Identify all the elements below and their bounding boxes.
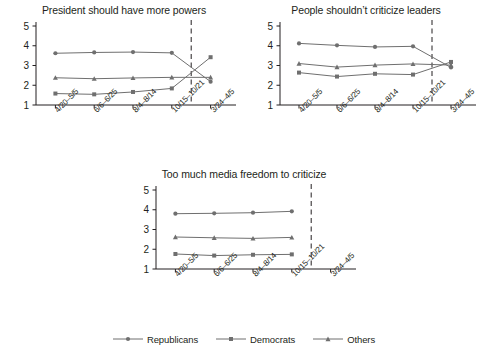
data-point-marker-square [335, 75, 339, 79]
data-point-marker-square [92, 92, 96, 96]
chart-plot-area: 12345 [252, 4, 480, 144]
y-axis-tick-label: 3 [143, 224, 149, 235]
chart-panel-media-freedom: Too much media freedom to criticize 1234… [126, 168, 362, 308]
data-point-marker-square [297, 71, 301, 75]
legend-marker-square-icon [216, 334, 246, 344]
series-line-democrats [175, 254, 291, 256]
legend-item-republicans[interactable]: Republicans [113, 334, 198, 345]
data-point-marker-square [170, 86, 174, 90]
legend-label: Others [347, 334, 375, 345]
y-axis-tick-label: 1 [267, 100, 273, 111]
data-point-marker-circle [170, 51, 174, 55]
series-line-others [175, 237, 291, 238]
data-point-marker-square [131, 90, 135, 94]
data-point-marker-circle [335, 43, 339, 47]
data-point-marker-circle [209, 80, 213, 84]
data-point-marker-circle [297, 41, 301, 45]
data-point-marker-circle [126, 337, 130, 341]
data-point-marker-square [53, 92, 57, 96]
data-point-marker-square [251, 253, 255, 257]
chart-panel-president-powers: President should have more powers 12345 … [8, 4, 240, 144]
legend-item-others[interactable]: Others [313, 334, 375, 345]
y-axis-tick-label: 3 [23, 60, 29, 71]
chart-panel-criticize-leaders: People shouldn’t criticize leaders 12345… [252, 4, 480, 144]
legend-marker-circle-icon [113, 334, 143, 344]
data-point-marker-circle [212, 211, 216, 215]
y-axis-tick-label: 5 [23, 21, 29, 32]
legend-label: Republicans [147, 334, 198, 345]
data-point-marker-square [173, 252, 177, 256]
legend-marker-triangle-icon [313, 334, 343, 344]
y-axis-tick-label: 5 [267, 21, 273, 32]
y-axis-tick-label: 4 [23, 40, 29, 51]
y-axis-tick-label: 2 [143, 244, 149, 255]
y-axis-tick-label: 1 [23, 100, 29, 111]
y-axis-tick-label: 2 [23, 80, 29, 91]
legend-item-democrats[interactable]: Democrats [216, 334, 295, 345]
series-line-republicans [175, 211, 291, 213]
y-axis-tick-label: 1 [143, 264, 149, 275]
data-point-marker-square [229, 337, 233, 341]
data-point-marker-square [212, 254, 216, 258]
figure-panel-chart: President should have more powers 12345 … [0, 0, 488, 357]
data-point-marker-circle [92, 50, 96, 54]
data-point-marker-circle [411, 44, 415, 48]
y-axis-tick-label: 4 [267, 40, 273, 51]
chart-legend: RepublicansDemocratsOthers [0, 330, 488, 348]
y-axis-tick-label: 4 [143, 204, 149, 215]
data-point-marker-square [290, 252, 294, 256]
chart-plot-area: 12345 [126, 168, 362, 308]
legend-label: Democrats [250, 334, 295, 345]
data-point-marker-circle [53, 51, 57, 55]
y-axis-tick-label: 2 [267, 80, 273, 91]
data-point-marker-square [209, 55, 213, 59]
data-point-marker-circle [131, 50, 135, 54]
chart-plot-area: 12345 [8, 4, 240, 144]
data-point-marker-circle [373, 45, 377, 49]
data-point-marker-circle [251, 211, 255, 215]
data-point-marker-square [373, 72, 377, 76]
data-point-marker-square [411, 73, 415, 77]
data-point-marker-circle [290, 209, 294, 213]
y-axis-tick-label: 3 [267, 60, 273, 71]
y-axis-tick-label: 5 [143, 185, 149, 196]
data-point-marker-circle [173, 212, 177, 216]
